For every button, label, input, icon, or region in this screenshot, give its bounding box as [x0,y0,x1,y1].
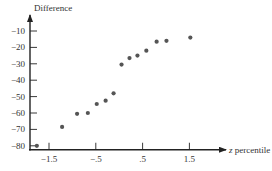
y-tick-label: −60 [11,108,26,118]
y-ticks: −10−20−30−40−50−60−70−80 [11,26,37,151]
y-tick-label: −40 [11,75,26,85]
x-ticks: −1.5−.5.51.5 [41,143,196,164]
data-point [35,144,39,148]
x-tick-label: −.5 [90,154,102,164]
data-point [104,99,108,103]
data-point [144,49,148,53]
axes [29,15,226,150]
y-tick-label: −70 [11,124,26,134]
y-axis-title: Difference [34,3,72,13]
data-point [188,35,192,39]
data-point [155,40,159,44]
scatter-chart: −1.5−.5.51.5 −10−20−30−40−50−60−70−80 Di… [0,0,272,171]
data-point [95,102,99,106]
data-point [111,91,115,95]
x-tick-label: −1.5 [41,154,58,164]
x-axis-title: z percentile [228,145,270,155]
data-point [135,54,139,58]
data-point [164,39,168,43]
y-tick-label: −20 [11,42,26,52]
data-point [75,112,79,116]
data-point [60,125,64,129]
y-tick-label: −80 [11,141,26,151]
data-points [35,35,193,147]
x-axis-title-text: percentile [233,145,271,155]
y-tick-label: −30 [11,59,26,69]
data-point [86,111,90,115]
y-tick-label: −50 [11,92,26,102]
y-tick-label: −10 [11,26,26,36]
data-point [119,63,123,67]
x-tick-label: .5 [139,154,146,164]
data-point [127,56,131,60]
x-tick-label: 1.5 [184,154,196,164]
